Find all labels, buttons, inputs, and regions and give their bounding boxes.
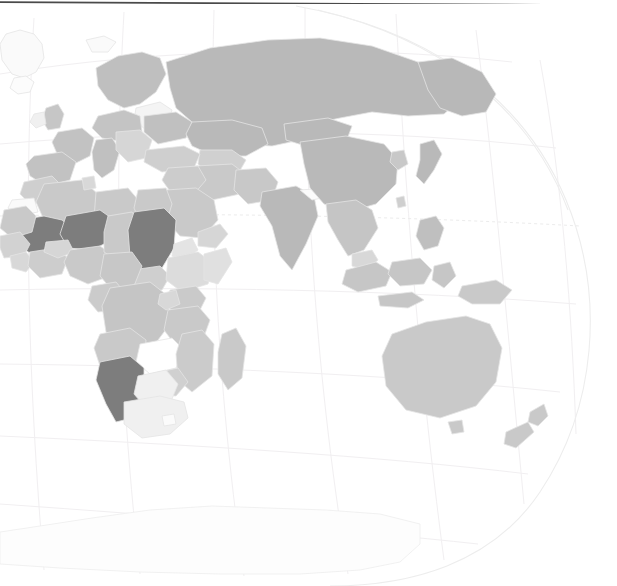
country-lesotho bbox=[162, 414, 176, 426]
world-map-figure bbox=[0, 4, 617, 586]
screenshot-root: World choropleth map bbox=[0, 0, 617, 586]
country-tunisia bbox=[82, 176, 96, 190]
country-taiwan bbox=[396, 196, 406, 208]
